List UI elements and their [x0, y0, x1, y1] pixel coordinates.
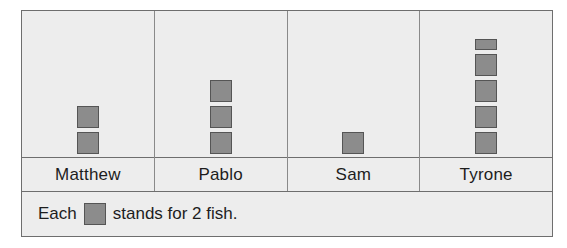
- gray-square-symbol: [475, 80, 497, 102]
- category-label-tyrone: Tyrone: [420, 157, 552, 191]
- gray-square-symbol: [475, 132, 497, 154]
- pictograph-frame: Matthew Pablo Sam Tyrone: [21, 10, 553, 237]
- pictograph-legend: Each stands for 2 fish.: [22, 191, 552, 236]
- pictograph-plot-area: Matthew Pablo Sam Tyrone: [22, 11, 552, 191]
- gray-square-symbol: [77, 132, 99, 154]
- symbol-stack-matthew: [22, 11, 154, 157]
- gray-square-symbol: [475, 106, 497, 128]
- legend-suffix-text: stands for 2 fish.: [113, 204, 238, 224]
- pictograph-column-matthew: Matthew: [22, 11, 155, 191]
- pictograph-column-sam: Sam: [288, 11, 421, 191]
- category-label-matthew: Matthew: [22, 157, 154, 191]
- gray-square-symbol: [342, 132, 364, 154]
- gray-square-symbol: [210, 80, 232, 102]
- gray-square-symbol-half: [475, 39, 497, 50]
- legend-prefix-text: Each: [38, 204, 77, 224]
- gray-square-symbol: [210, 106, 232, 128]
- gray-square-symbol: [77, 106, 99, 128]
- gray-square-symbol: [210, 132, 232, 154]
- symbol-stack-pablo: [155, 11, 287, 157]
- category-label-pablo: Pablo: [155, 157, 287, 191]
- category-label-sam: Sam: [288, 157, 420, 191]
- pictograph-column-pablo: Pablo: [155, 11, 288, 191]
- gray-square-symbol: [475, 54, 497, 76]
- symbol-stack-sam: [288, 11, 420, 157]
- pictograph-column-tyrone: Tyrone: [420, 11, 552, 191]
- gray-square-symbol: [84, 203, 106, 225]
- symbol-stack-tyrone: [420, 11, 552, 157]
